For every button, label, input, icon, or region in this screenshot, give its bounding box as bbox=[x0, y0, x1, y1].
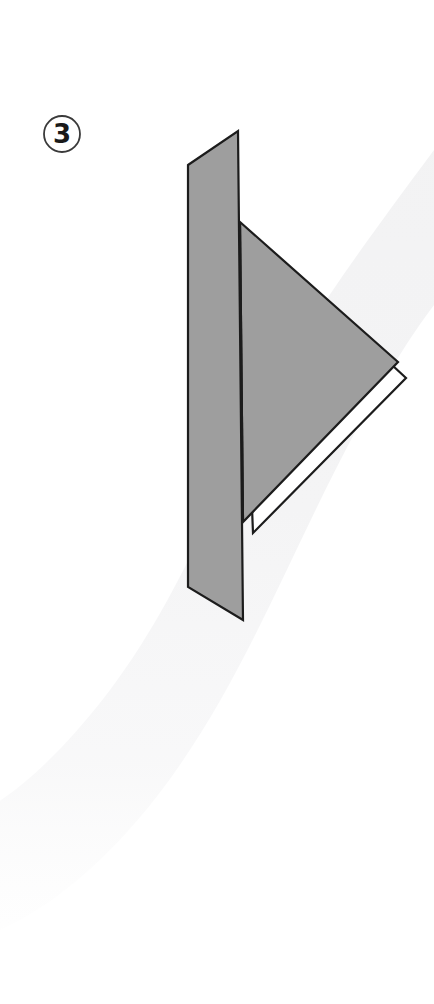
vertical-back-panel bbox=[188, 131, 243, 620]
triangular-front-flap bbox=[240, 222, 398, 522]
diagram-canvas: 3 bbox=[0, 0, 434, 1004]
folded-paper-figure bbox=[0, 0, 434, 1004]
